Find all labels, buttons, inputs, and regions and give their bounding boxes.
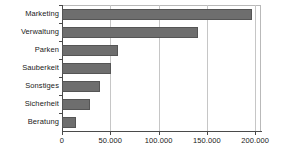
category-axis-tick xyxy=(59,95,62,96)
category-label-sauberkeit: Sauberkeit xyxy=(22,63,59,72)
bar-sonstiges xyxy=(62,81,100,92)
bar-sicherheit xyxy=(62,99,90,110)
category-axis-tick xyxy=(59,77,62,78)
category-axis-tick xyxy=(59,41,62,42)
category-axis-tick xyxy=(59,59,62,60)
category-label-sicherheit: Sicherheit xyxy=(25,99,59,108)
value-axis-tick-label: 100.000 xyxy=(145,136,173,145)
category-axis-tick xyxy=(59,5,62,6)
value-axis-tick xyxy=(62,131,63,135)
category-axis-tick xyxy=(59,113,62,114)
category-label-parken: Parken xyxy=(35,45,59,54)
bar-sauberkeit xyxy=(62,63,111,74)
bar-marketing xyxy=(62,9,252,20)
bar-verwaltung xyxy=(62,27,198,38)
bar-beratung xyxy=(62,117,76,128)
gridline-200.000 xyxy=(255,5,256,131)
category-label-sonstiges: Sonstiges xyxy=(25,81,59,90)
bar-parken xyxy=(62,45,118,56)
value-axis-tick-label: 0 xyxy=(60,136,64,145)
horizontal-bar-chart: MarketingVerwaltungParkenSauberkeitSonst… xyxy=(0,0,283,159)
value-axis-tick-label: 150.000 xyxy=(193,136,221,145)
value-axis-tick xyxy=(159,131,160,135)
value-axis-tick-label: 200.000 xyxy=(241,136,269,145)
category-axis-tick xyxy=(59,23,62,24)
category-label-beratung: Beratung xyxy=(28,117,59,126)
value-axis-tick-label: 50.000 xyxy=(99,136,123,145)
category-label-verwaltung: Verwaltung xyxy=(21,27,59,36)
value-axis-line xyxy=(62,131,262,132)
gridline-150.000 xyxy=(207,5,208,131)
value-axis-tick xyxy=(207,131,208,135)
value-axis-tick xyxy=(110,131,111,135)
category-label-marketing: Marketing xyxy=(25,9,59,18)
gridline-100.000 xyxy=(159,5,160,131)
value-axis-tick xyxy=(255,131,256,135)
